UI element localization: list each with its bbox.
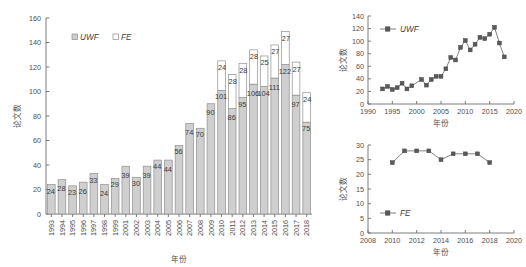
data-point-marker (427, 149, 431, 153)
stacked-bar-chart-panel: 020406080100120140160论文数1993199419951996… (0, 0, 318, 267)
bar-value-label-uwf: 86 (228, 113, 236, 122)
uwf-line-chart: 0204060801001201401990199520002005201020… (318, 0, 526, 134)
data-point-marker (439, 158, 443, 162)
left-x-axis-title: 年份 (171, 254, 187, 264)
fe-line-chart: 0510152025302008201020122014201620182020… (318, 133, 526, 267)
bar-segment-uwf (186, 123, 194, 214)
data-point-marker (390, 88, 394, 92)
x-tick-label: 2004 (153, 220, 162, 236)
bar-value-label-uwf: 70 (196, 130, 204, 139)
x-tick-label: 2005 (164, 220, 173, 236)
x-tick-label: 2015 (270, 220, 279, 236)
bar-value-label-uwf: 30 (132, 179, 140, 188)
data-point-marker (483, 37, 487, 41)
bar-segment-uwf (271, 78, 279, 214)
svg-uwf-legend: UWF (380, 25, 420, 34)
bar-value-label-uwf: 29 (111, 180, 119, 189)
data-point-marker (459, 46, 463, 50)
bar-value-label-fe: 28 (239, 66, 247, 75)
svg-uwf-y-axis-title: 论文数 (338, 48, 348, 72)
bar-value-label-uwf: 75 (302, 124, 310, 133)
x-tick-label: 2007 (185, 220, 194, 236)
data-point-marker (425, 83, 429, 87)
legend-marker (386, 27, 390, 31)
bar-value-label-uwf: 28 (57, 184, 65, 193)
svg-fe-y-axis-title: 论文数 (338, 177, 348, 201)
x-tick-label: 2016 (457, 236, 473, 245)
data-point-marker (498, 41, 502, 45)
data-point-marker (478, 35, 482, 39)
bar-value-label-uwf: 44 (153, 162, 161, 171)
bar-value-label-fe: 27 (271, 47, 279, 56)
data-point-marker (439, 74, 443, 78)
svg-fe-x-axis-title: 年份 (433, 247, 449, 257)
bar-value-label-uwf: 26 (79, 187, 87, 196)
bar-value-label-uwf: 44 (164, 165, 172, 174)
bar-segment-uwf (282, 65, 290, 214)
line-charts-panel: 0204060801001201401990199520002005201020… (318, 0, 526, 267)
svg-uwf-markers (381, 25, 506, 91)
data-point-marker (429, 78, 433, 82)
x-tick-label: 2008 (196, 220, 205, 236)
data-point-marker (449, 56, 453, 60)
bar-segment-uwf (228, 109, 236, 214)
x-tick-label: 2011 (228, 220, 237, 235)
bar-value-label-uwf: 97 (291, 100, 299, 109)
bar-value-label-fe: 24 (303, 95, 311, 104)
legend-label: FE (400, 209, 411, 218)
bar-value-label-uwf: 33 (89, 176, 97, 185)
bar-segment-uwf (250, 84, 258, 214)
bar-value-label-uwf: 56 (174, 147, 182, 156)
bar-segment-uwf (207, 104, 215, 214)
x-tick-label: 1996 (79, 220, 88, 236)
data-point-marker (502, 55, 506, 59)
x-tick-label: 2003 (143, 220, 152, 236)
y-tick-label: 0 (37, 210, 41, 219)
x-tick-label: 2014 (260, 220, 269, 236)
bar-segment-uwf (292, 95, 300, 214)
x-tick-label: 1995 (68, 220, 77, 236)
x-tick-label: 1993 (47, 220, 56, 236)
legend-label: UWF (400, 25, 420, 34)
bar-value-label-fe: 25 (261, 58, 269, 67)
bar-value-label-uwf: 24 (100, 189, 108, 198)
bar-value-label-fe: 27 (292, 65, 300, 74)
svg-fe-legend: FE (380, 209, 411, 218)
y-tick-label: 30 (356, 141, 364, 150)
bar-value-label-uwf: 24 (47, 187, 55, 196)
bar-value-label-fe: 27 (282, 34, 290, 43)
y-tick-label: 20 (356, 87, 364, 96)
x-tick-label: 2005 (433, 107, 449, 116)
figure-container: 020406080100120140160论文数1993199419951996… (0, 0, 526, 267)
data-point-marker (395, 86, 399, 90)
left-y-axis-title: 论文数 (12, 104, 22, 128)
y-tick-label: 140 (29, 38, 41, 47)
bar-value-label-uwf: 39 (121, 171, 129, 180)
y-tick-label: 120 (352, 24, 364, 33)
data-point-marker (463, 152, 467, 156)
data-point-marker (463, 39, 467, 43)
bar-segment-uwf (260, 87, 268, 214)
legend-swatch-uwf (72, 34, 78, 40)
x-tick-label: 2014 (433, 236, 449, 245)
bar-segment-uwf (303, 122, 311, 214)
data-point-marker (386, 85, 390, 89)
x-tick-label: 2010 (457, 107, 473, 116)
data-point-marker (390, 161, 394, 165)
y-tick-label: 20 (33, 185, 41, 194)
data-point-marker (454, 58, 458, 62)
bar-value-label-uwf: 90 (206, 108, 214, 117)
x-tick-label: 2016 (281, 220, 290, 236)
data-point-marker (410, 84, 414, 88)
y-tick-label: 160 (29, 14, 41, 23)
x-tick-label: 1994 (58, 220, 67, 236)
data-point-marker (381, 87, 385, 91)
legend-label-uwf: UWF (80, 33, 100, 42)
y-tick-label: 60 (356, 62, 364, 71)
fe-line-chart-panel: 0510152025302008201020122014201620182020… (318, 133, 526, 267)
y-tick-label: 100 (352, 37, 364, 46)
bar-segment-uwf (196, 128, 204, 214)
bar-value-label-uwf: 23 (68, 188, 76, 197)
svg-uwf-x-axis-title: 年份 (433, 118, 449, 128)
data-point-marker (405, 87, 409, 91)
